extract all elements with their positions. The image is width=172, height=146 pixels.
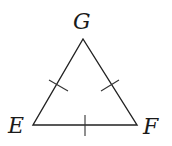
vertex-label-g: G bbox=[73, 9, 91, 34]
triangle-efg bbox=[33, 39, 137, 125]
triangle-diagram: G E F bbox=[0, 0, 172, 146]
vertex-label-e: E bbox=[7, 113, 24, 138]
vertex-label-f: F bbox=[142, 114, 159, 139]
